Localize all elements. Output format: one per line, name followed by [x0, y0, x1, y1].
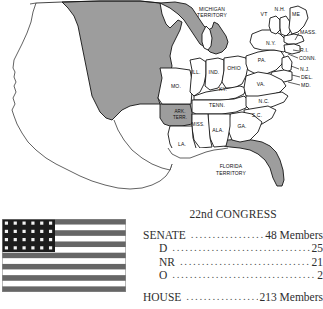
flag-star [49, 222, 52, 225]
flag-stripe [2, 281, 126, 287]
map-label-missouri: MO. [171, 83, 181, 89]
map-label-new-jersey: N.J. [300, 66, 310, 72]
flag-stripe [2, 286, 126, 292]
map-label-mississippi: MISS. [191, 122, 204, 127]
congress-legend: 22nd CONGRESS SENATE....................… [143, 205, 323, 309]
flag-stripe [2, 270, 126, 276]
legend-row-o: O.......................................… [143, 269, 323, 282]
ohio-shape [222, 56, 248, 88]
map-label-maryland: MD. [301, 82, 311, 88]
us-flag-24-star [2, 219, 126, 292]
flag-star [31, 230, 34, 233]
flag-star [40, 238, 43, 241]
flag-stripe [2, 258, 126, 264]
flag-star [14, 238, 17, 241]
flag-star [14, 246, 17, 249]
map-label-tennessee: TENN. [209, 102, 225, 108]
legend-dot-leader: ........................................ [172, 268, 316, 281]
legend-dot-leader: ........................................ [180, 255, 311, 268]
leader-maryland [288, 82, 300, 85]
map-label-florida-territory2: TERRITORY [216, 170, 247, 176]
flag-canton [2, 219, 55, 252]
new-hampshire-shape [280, 16, 290, 36]
connecticut-shape [284, 44, 300, 54]
map-label-florida-territory: FLORIDA [220, 163, 243, 169]
map-label-kentucky: KY. [219, 86, 227, 92]
legend-dot-leader: ........................................ [172, 241, 310, 254]
legend-row-house: HOUSE...................................… [143, 291, 323, 304]
leader-new-jersey [291, 66, 299, 69]
flag-star [40, 230, 43, 233]
flag-star [5, 246, 8, 249]
flag-star [40, 222, 43, 225]
map-label-arkansas-territory: ARK. [174, 109, 185, 114]
leader-delaware [292, 75, 300, 77]
legend-row-value: 25 [312, 242, 323, 255]
map-label-rhode-island: R.I. [300, 47, 309, 53]
flag-star [5, 230, 8, 233]
legend-row-label: HOUSE [143, 291, 181, 304]
flag-star [40, 246, 43, 249]
map-label-georgia: GA. [237, 123, 246, 129]
map-label-vermont: VT [261, 11, 268, 17]
map-label-massachusetts: MASS. [300, 29, 317, 35]
flag-svg [2, 219, 126, 292]
flag-stripe [2, 264, 126, 270]
flag-star [14, 230, 17, 233]
map-label-connecticut: CONN. [299, 55, 316, 61]
legend-row-label: SENATE [143, 229, 186, 242]
flag-star [5, 222, 8, 225]
legend-row-label: O [159, 269, 167, 282]
legend-rows: SENATE..................................… [143, 229, 323, 304]
flag-star [31, 222, 34, 225]
vermont-shape [269, 16, 280, 34]
legend-row-nr: NR......................................… [143, 256, 323, 269]
legend-row-value: 48 Members [265, 229, 323, 242]
flag-star [49, 246, 52, 249]
map-label-ohio: OHIO [227, 65, 241, 71]
legend-row-value: 2 [317, 269, 323, 282]
legend-title: 22nd CONGRESS [143, 205, 323, 220]
map-label-north-carolina: N.C. [259, 98, 270, 104]
map-label-indiana: IND. [209, 69, 220, 75]
flag-star [22, 230, 25, 233]
flag-star [49, 238, 52, 241]
legend-row-label: NR [159, 256, 175, 269]
flag-stripe [2, 275, 126, 281]
flag-star [22, 246, 25, 249]
new-jersey-shape [282, 56, 292, 72]
map-label-new-hampshire: N.H. [275, 6, 286, 12]
map-label-new-york: N.Y. [266, 40, 276, 46]
legend-row-label: D [159, 242, 167, 255]
legend-row-senate: SENATE..................................… [143, 229, 323, 242]
map-svg: MICHIGANTERRITORYVTN.H.MEMASS.N.Y.R.I.CO… [0, 0, 323, 200]
historical-us-map: MICHIGANTERRITORYVTN.H.MEMASS.N.Y.R.I.CO… [0, 0, 323, 200]
flag-star [31, 238, 34, 241]
flag-star [49, 230, 52, 233]
map-label-louisiana: LA. [178, 141, 186, 147]
legend-row-d: D.......................................… [143, 242, 323, 255]
map-label-alabama: ALA. [212, 127, 224, 133]
flag-star [31, 246, 34, 249]
illinois-shape [190, 58, 206, 96]
map-label-pennsylvania: PA. [258, 57, 266, 63]
legend-dot-leader: ........................................ [191, 228, 264, 241]
flag-star [22, 222, 25, 225]
map-label-illinois: ILL. [191, 69, 200, 75]
massachusetts-shape [284, 34, 304, 44]
map-label-south-carolina: S.C. [252, 112, 263, 118]
flag-star [22, 238, 25, 241]
flag-stripe [2, 253, 126, 259]
map-label-michigan-territory2: TERRITORY [197, 12, 228, 18]
leader-connecticut [288, 54, 298, 58]
legend-row-value: 213 Members [259, 291, 323, 304]
map-label-delaware: DEL. [301, 74, 313, 80]
map-label-maine: ME [292, 11, 300, 17]
legend-dot-leader: ........................................ [186, 290, 258, 303]
map-label-virginia: VA. [257, 81, 265, 87]
flag-star [14, 222, 17, 225]
flag-star [5, 238, 8, 241]
legend-row-value: 21 [312, 256, 323, 269]
map-label-arkansas-territory2: TERR. [173, 115, 187, 120]
gulf-coast-outline [168, 148, 228, 158]
